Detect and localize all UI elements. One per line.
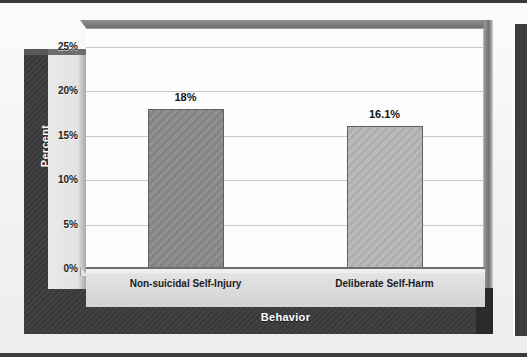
- chart-floor-front-edge: [86, 269, 485, 273]
- x-axis-category-label: Deliberate Self-Harm: [285, 278, 484, 289]
- bar-value-label: 18%: [174, 91, 196, 103]
- gridline: [86, 136, 483, 137]
- gridline: [86, 91, 483, 92]
- bar-value-label: 16.1%: [369, 108, 400, 120]
- y-axis-tick-label: 10%: [58, 174, 78, 185]
- y-axis-tick-label: 0%: [64, 263, 78, 274]
- bar-chart-figure: Percent 0%5%10%15%20%25% Non-suicidal Se…: [24, 20, 504, 338]
- plot-area: [86, 28, 484, 268]
- y-axis-tick-label: 20%: [58, 85, 78, 96]
- chart-floor: Non-suicidal Self-InjuryDeliberate Self-…: [86, 269, 485, 307]
- plot-backwall-top-bevel: [80, 20, 492, 28]
- y-axis-tick-label: 25%: [58, 40, 78, 51]
- facing-page-sliver: [513, 24, 527, 336]
- bar: [148, 109, 224, 268]
- gridline: [86, 47, 483, 48]
- y-axis-tick-label: 15%: [58, 129, 78, 140]
- page-top-rule: [0, 0, 527, 3]
- plot-backwall-right-edge: [484, 20, 493, 288]
- y-axis-tick-label: 5%: [64, 218, 78, 229]
- gridline: [86, 225, 483, 226]
- x-axis-category-label: Non-suicidal Self-Injury: [86, 278, 285, 289]
- y-axis-tick-strip: 0%5%10%15%20%25%: [48, 55, 86, 289]
- page-background: Percent 0%5%10%15%20%25% Non-suicidal Se…: [0, 0, 527, 357]
- x-axis-title: Behavior: [86, 311, 485, 323]
- page-bottom-rule: [0, 353, 527, 357]
- gridline: [86, 180, 483, 181]
- bar: [347, 126, 423, 268]
